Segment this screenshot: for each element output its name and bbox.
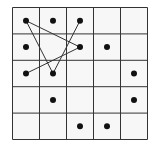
dot-grid-diagram (0, 0, 158, 147)
grid-cell (121, 34, 148, 60)
dot (104, 123, 110, 129)
dot (77, 44, 83, 50)
dot (104, 44, 110, 50)
dot (23, 71, 29, 77)
grid-cell (94, 60, 121, 86)
grid-cells (13, 8, 148, 140)
dot (23, 18, 29, 24)
grid-cell (94, 87, 121, 113)
grid-cell (67, 87, 94, 113)
grid-cell (13, 113, 40, 139)
grid-cell (67, 60, 94, 86)
grid-cell (94, 8, 121, 34)
dot (131, 97, 137, 103)
grid-cell (121, 113, 148, 139)
grid-cell (121, 8, 148, 34)
grid-cell (40, 34, 67, 60)
dot (50, 18, 56, 24)
grid-cell (13, 87, 40, 113)
dot (131, 71, 137, 77)
dot (50, 97, 56, 103)
dot (77, 123, 83, 129)
dot (77, 18, 83, 24)
dot (23, 44, 29, 50)
dot (50, 71, 56, 77)
grid-cell (40, 113, 67, 139)
